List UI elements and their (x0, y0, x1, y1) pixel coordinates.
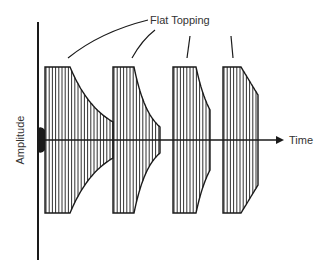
leader-line-3 (187, 36, 190, 58)
leader-line-2 (132, 30, 155, 58)
flat-topping-diagram (0, 0, 326, 272)
x-axis-label: Time (289, 134, 313, 146)
flat-topping-label: Flat Topping (150, 14, 210, 26)
leader-line-4 (231, 36, 233, 58)
y-axis-label: Amplitude (14, 112, 26, 168)
x-axis-arrow-icon (276, 136, 284, 144)
